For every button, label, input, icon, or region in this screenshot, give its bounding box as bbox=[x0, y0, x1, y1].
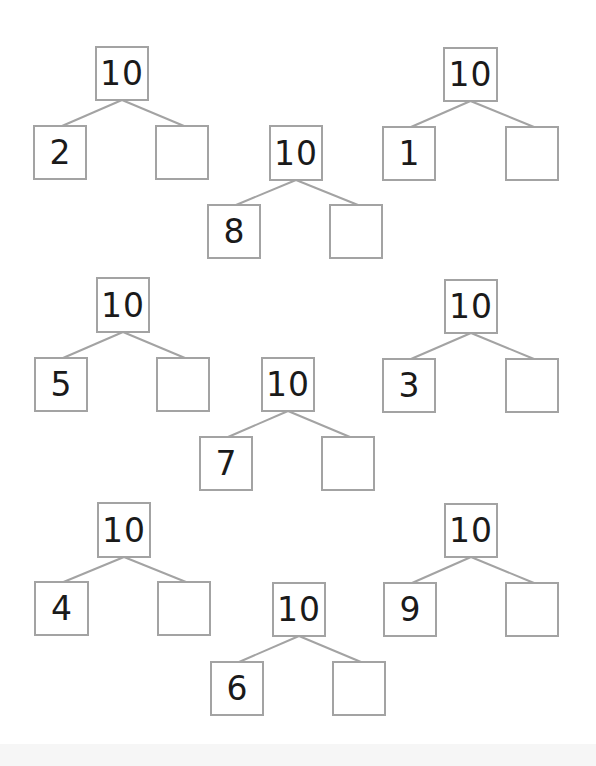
bond-6-whole-box: 10 bbox=[261, 357, 315, 412]
bond-3-whole-box: 10 bbox=[269, 125, 323, 181]
bond-4-whole-box: 10 bbox=[96, 277, 150, 333]
bond-1-whole-box: 10 bbox=[95, 46, 149, 101]
bond-3-known-part-box: 8 bbox=[207, 204, 261, 259]
bond-6-known-part-box: 7 bbox=[199, 436, 253, 491]
bond-9-whole-box: 10 bbox=[272, 582, 326, 637]
bond-5-known-part-box: 3 bbox=[382, 358, 436, 413]
bond-1-known-part-box: 2 bbox=[33, 125, 87, 180]
bond-8-known-part-box: 9 bbox=[383, 582, 437, 637]
bond-2-missing-part-box[interactable] bbox=[505, 126, 559, 181]
bond-5-missing-part-box[interactable] bbox=[505, 358, 559, 413]
bond-5-whole-box: 10 bbox=[444, 279, 498, 334]
bond-4-missing-part-box[interactable] bbox=[156, 357, 210, 412]
bond-1-missing-part-box[interactable] bbox=[155, 125, 209, 180]
bond-7-missing-part-box[interactable] bbox=[157, 581, 211, 636]
bond-9-missing-part-box[interactable] bbox=[332, 661, 386, 716]
bond-6-missing-part-box[interactable] bbox=[321, 436, 375, 491]
bond-3-missing-part-box[interactable] bbox=[329, 204, 383, 259]
bond-8-whole-box: 10 bbox=[444, 503, 498, 558]
bond-7-known-part-box: 4 bbox=[34, 581, 89, 636]
bond-8-missing-part-box[interactable] bbox=[505, 582, 559, 637]
number-bond-worksheet: 10 2 10 1 10 8 10 5 10 3 10 7 10 4 10 9 … bbox=[0, 0, 596, 766]
bond-9-known-part-box: 6 bbox=[210, 661, 264, 716]
bottom-scan-band bbox=[0, 744, 596, 766]
bond-4-known-part-box: 5 bbox=[34, 357, 88, 412]
bond-2-whole-box: 10 bbox=[443, 47, 498, 102]
bond-2-known-part-box: 1 bbox=[382, 126, 436, 181]
bond-7-whole-box: 10 bbox=[97, 502, 151, 558]
